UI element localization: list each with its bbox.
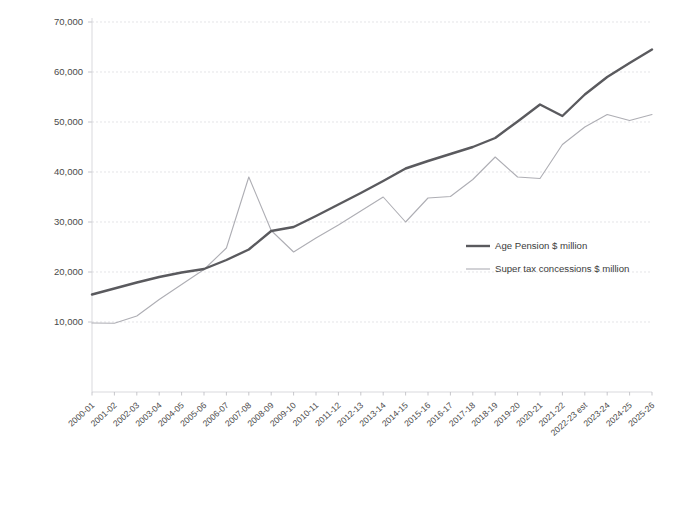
chart-legend: Age Pension $ millionSuper tax concessio… [466, 240, 629, 274]
y-axis-tick-label: 40,000 [54, 166, 83, 177]
legend-label: Age Pension $ million [495, 240, 587, 251]
series-group [92, 50, 652, 324]
legend-label: Super tax concessions $ million [495, 263, 629, 274]
y-axis-tick-label: 20,000 [54, 266, 83, 277]
y-axis-tick-label: 70,000 [54, 16, 83, 27]
y-axis-tick-label: 10,000 [54, 316, 83, 327]
line-chart: 10,00020,00030,00040,00050,00060,00070,0… [0, 0, 695, 508]
series-line-super-tax-concessions [92, 115, 652, 324]
x-axis-labels: 2000-012001-022002-032003-042004-052005-… [66, 392, 656, 438]
y-axis-tick-label: 30,000 [54, 216, 83, 227]
y-axis-tick-label: 60,000 [54, 66, 83, 77]
chart-container: 10,00020,00030,00040,00050,00060,00070,0… [0, 0, 695, 508]
y-axis-tick-label: 50,000 [54, 116, 83, 127]
